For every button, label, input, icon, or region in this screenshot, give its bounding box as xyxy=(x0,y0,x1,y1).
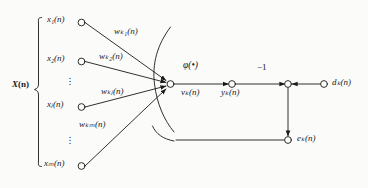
synapse-lines xyxy=(85,23,166,167)
input-vector-label: X(n) xyxy=(12,80,29,89)
weight-label-wkm: wₖₘ(n) xyxy=(79,120,106,129)
input-label-x1: x₁(n) xyxy=(47,15,65,24)
input-label-xm: xₘ(n) xyxy=(44,159,65,168)
ellipsis-lower-icon: ... xyxy=(67,133,73,143)
desired-response-label: dₖ(n) xyxy=(332,78,351,87)
error-signal-label: eₖ(n) xyxy=(297,134,316,143)
activation-function-label: φ(•) xyxy=(183,60,198,70)
neural-network-diagram: X(n) x₁(n) x₂(n) xⱼ(n) xₘ(n) ... ... wₖ₁… xyxy=(0,0,368,188)
neuron-output-label: yₖ(n) xyxy=(221,88,240,97)
ellipsis-upper-icon: ... xyxy=(67,74,73,84)
input-label-xj: xⱼ(n) xyxy=(47,100,64,109)
weight-label-wkj: wₖⱼ(n) xyxy=(101,87,124,96)
induced-local-field-label: vₖ(n) xyxy=(181,88,200,97)
weight-label-wk2: wₖ₂(n) xyxy=(99,52,123,61)
input-vector-brace xyxy=(35,18,42,167)
weight-label-wk1: wₖ₁(n) xyxy=(114,27,138,36)
input-label-x2: x₂(n) xyxy=(47,54,65,63)
bias-gain-label: −1 xyxy=(257,62,267,72)
